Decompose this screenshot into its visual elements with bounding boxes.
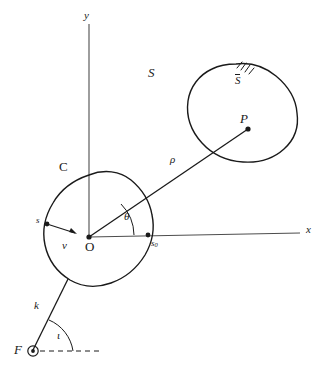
point-p — [245, 126, 250, 131]
curve-c-label: C — [59, 160, 68, 173]
figure-canvas: y x O C S S P F s s0 ρ ν k θ ι — [0, 0, 327, 377]
rho-vector — [89, 129, 248, 237]
curve-c — [44, 172, 153, 287]
x-axis — [89, 233, 300, 237]
point-s0-label: s0 — [151, 239, 158, 249]
origin-label: O — [85, 240, 94, 253]
point-f-label: F — [14, 343, 22, 356]
x-axis-label: x — [306, 224, 311, 235]
iota-label: ι — [57, 330, 60, 341]
nu-label: ν — [62, 240, 67, 251]
point-f-symbol — [28, 346, 38, 356]
point-s — [45, 222, 50, 227]
nu-arrow — [47, 224, 77, 234]
region-s-label: S — [148, 66, 155, 79]
rho-label: ρ — [170, 154, 175, 165]
diagram-svg — [0, 0, 327, 377]
point-s-label: s — [36, 216, 40, 225]
point-s0 — [146, 233, 151, 238]
surface-s-bar-text: S — [235, 75, 241, 86]
point-s0-subscript: 0 — [155, 241, 158, 248]
point-p-label: P — [240, 112, 248, 125]
axes-group — [89, 24, 300, 238]
k-vector — [33, 279, 68, 350]
iota-arc — [49, 320, 73, 351]
k-label: k — [34, 300, 39, 311]
theta-label: θ — [124, 211, 129, 222]
surface-s-bar-label: S — [235, 75, 241, 86]
y-axis-label: y — [84, 10, 89, 21]
